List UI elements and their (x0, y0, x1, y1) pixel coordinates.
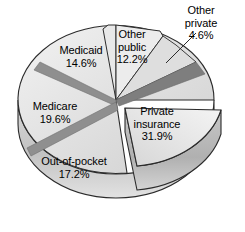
slice-name-private-insurance: Privateinsurance (120, 105, 194, 130)
slice-label-medicaid: Medicaid 14.6% (48, 44, 114, 69)
slice-value-private-insurance: 31.9% (120, 130, 194, 143)
slice-value-other-private: 4.6% (160, 29, 242, 42)
slice-value-medicare: 19.6% (22, 113, 88, 126)
slice-name-out-of-pocket: Out-of-pocket (32, 155, 116, 168)
slice-value-medicaid: 14.6% (48, 57, 114, 70)
slice-label-out-of-pocket: Out-of-pocket 17.2% (32, 155, 116, 180)
slice-name-other-private: Otherprivate (160, 4, 242, 29)
slice-label-medicare: Medicare 19.6% (22, 100, 88, 125)
slice-label-private-insurance: Privateinsurance 31.9% (120, 105, 194, 143)
slice-name-medicare: Medicare (22, 100, 88, 113)
slice-name-medicaid: Medicaid (48, 44, 114, 57)
pie-chart: Otherprivate 4.6% Otherpublic 12.2% Medi… (0, 0, 245, 232)
slice-label-other-private: Otherprivate 4.6% (160, 4, 242, 42)
slice-value-out-of-pocket: 17.2% (32, 168, 116, 181)
